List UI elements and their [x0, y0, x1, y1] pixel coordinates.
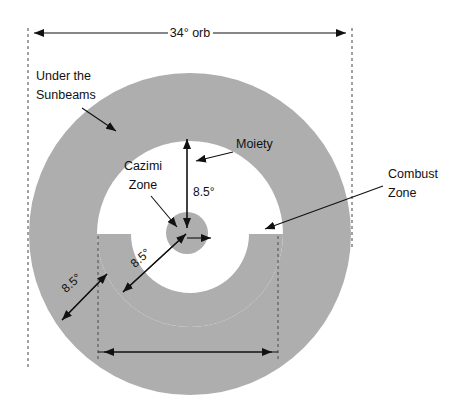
- combust-zone-label-line2: Zone: [388, 186, 417, 200]
- diagram-canvas: 34° orb Under the Sunbeams Moiety 8.5° C…: [0, 0, 459, 419]
- moiety-label: Moiety: [236, 137, 274, 151]
- zone-rings: [29, 73, 351, 395]
- cazimi-zone-label-line2: Zone: [129, 178, 158, 192]
- orb-dimension: 34° orb: [34, 26, 346, 40]
- under-the-sunbeams-label-line1: Under the: [36, 69, 91, 83]
- under-the-sunbeams-label-line2: Sunbeams: [36, 88, 96, 102]
- moiety-vertical-degree-label: 8.5°: [193, 185, 215, 199]
- combust-zone-label-line1: Combust: [388, 167, 439, 181]
- zone-diagram: 34° orb Under the Sunbeams Moiety 8.5° C…: [0, 0, 459, 419]
- cazimi-zone-label-line1: Cazimi: [124, 159, 162, 173]
- orb-dimension-label: 34° orb: [170, 26, 210, 40]
